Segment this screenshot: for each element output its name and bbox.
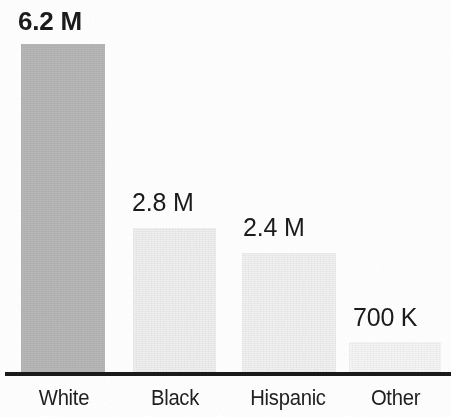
bar-hispanic bbox=[242, 253, 336, 376]
axis-tick-label-black: Black bbox=[134, 385, 217, 411]
axis-tick-label-other: Other bbox=[352, 385, 439, 411]
value-label-black: 2.8 M bbox=[132, 188, 194, 217]
value-label-other: 700 K bbox=[353, 303, 417, 332]
value-label-hispanic: 2.4 M bbox=[243, 213, 305, 242]
value-label-white: 6.2 M bbox=[18, 6, 82, 37]
axis-tick-label-hispanic: Hispanic bbox=[237, 385, 338, 411]
bar-black bbox=[133, 228, 216, 376]
bar-other bbox=[349, 342, 441, 376]
axis-tick-label-white: White bbox=[23, 385, 106, 411]
bar-chart: 6.2 M 2.8 M 2.4 M 700 K White Black Hisp… bbox=[0, 0, 451, 417]
bar-white bbox=[21, 44, 105, 376]
x-axis-line bbox=[5, 372, 451, 376]
